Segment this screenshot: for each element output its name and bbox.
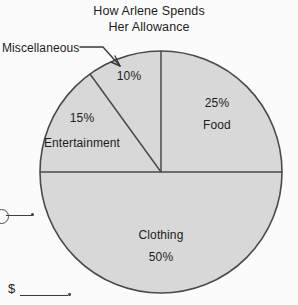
callout-label-miscellaneous: Miscellaneous xyxy=(2,41,79,55)
slice-label-misc-percent: 10% xyxy=(117,69,142,83)
page-artifact-rule xyxy=(6,215,32,216)
slice-label-entertainment-percent: 15% xyxy=(70,111,95,125)
answer-blank-rule xyxy=(20,295,68,296)
answer-blank-currency-symbol: $ xyxy=(8,281,15,296)
pie-chart: 25% Food Clothing 50% 15% Entertainment … xyxy=(0,0,298,305)
page-artifact-rule-dot xyxy=(31,213,34,216)
slice-label-clothing-percent: 50% xyxy=(149,250,174,264)
slice-label-entertainment-name: Entertainment xyxy=(44,136,121,150)
slice-label-food-name: Food xyxy=(203,118,231,132)
slice-label-clothing-name: Clothing xyxy=(139,228,184,242)
worksheet-page: How Arlene SpendsHer Allowance 25% Food … xyxy=(0,0,298,305)
answer-blank-rule-dot xyxy=(68,293,71,296)
slice-label-food-percent: 25% xyxy=(205,96,230,110)
